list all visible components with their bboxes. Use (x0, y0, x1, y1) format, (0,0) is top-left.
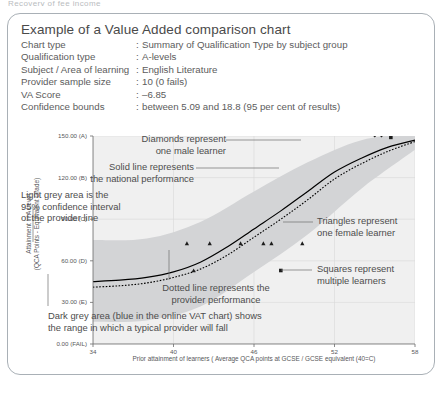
annotation-line: one female learner (317, 227, 427, 239)
y-axis-title: Attainment in A Level (QCA Points - Equi… (25, 120, 40, 328)
annotation-line: multiple learners (317, 275, 427, 287)
meta-label: Subject / Area of learning (21, 64, 136, 76)
annotation-line: of the provider line (21, 212, 171, 224)
y-tick-label: 60.00 (D) (21, 257, 87, 264)
x-axis-title: Prior attainment of learners ( Average Q… (93, 355, 415, 362)
annotation-line: provider performance (131, 294, 301, 306)
annotation-line: the range in which a typical provider wi… (48, 322, 318, 334)
annotation-diamonds: Diamonds represent one male learner (81, 133, 226, 156)
meta-value: English Literature (142, 64, 425, 76)
annotation-dark-grey-area: Dark grey area (blue in the online VAT c… (48, 310, 318, 333)
annotation-line: the national performance (51, 173, 194, 185)
annotation-line: Dotted line represents the (131, 282, 301, 294)
clipped-page-header-text: Recovery of fee income (8, 0, 148, 6)
meta-value: Summary of Qualification Type by subject… (142, 39, 425, 51)
meta-row-qualification-type: Qualification type : A-levels (21, 51, 425, 63)
annotation-line: Solid line represents (51, 161, 194, 173)
meta-label: Qualification type (21, 51, 136, 63)
meta-value: between 5.09 and 18.8 (95 per cent of re… (142, 101, 425, 113)
annotation-line: Squares represent (317, 263, 427, 275)
meta-label: Confidence bounds (21, 101, 136, 113)
y-axis-title-line-1: Attainment in A Level (25, 120, 33, 328)
y-tick-label: 30.00 (E) (21, 298, 87, 305)
x-tick-label: 46 (240, 348, 268, 355)
y-tick-label: 0.00 (FAIL) (21, 340, 87, 347)
y-axis-title-line-2: (QCA Points - Equivalent Grade) (33, 120, 41, 328)
annotation-light-grey-area: Light grey area is the 95% confidence in… (21, 189, 171, 224)
chart-metadata-header: Example of a Value Added comparison char… (21, 22, 425, 113)
meta-value: 10 (0 fails) (142, 76, 425, 88)
data-point-square (279, 269, 283, 273)
meta-label: VA Score (21, 89, 136, 101)
meta-row-provider-sample-size: Provider sample size : 10 (0 fails) (21, 76, 425, 88)
x-tick-label: 58 (401, 348, 429, 355)
meta-label: Chart type (21, 39, 136, 51)
annotation-triangles: Triangles represent one female learner (317, 215, 427, 238)
annotation-line: Light grey area is the (21, 189, 171, 201)
meta-label: Provider sample size (21, 76, 136, 88)
annotation-line: 95% confidence interval (21, 201, 171, 213)
value-added-chart-card: Example of a Value Added comparison char… (7, 13, 435, 375)
meta-row-chart-type: Chart type : Summary of Qualification Ty… (21, 39, 425, 51)
meta-value: A-levels (142, 51, 425, 63)
annotation-line: Triangles represent (317, 215, 427, 227)
annotation-line: Diamonds represent (81, 133, 226, 145)
x-tick-label: 40 (160, 348, 188, 355)
meta-row-va-score: VA Score : –6.85 (21, 89, 425, 101)
meta-row-subject-area: Subject / Area of learning : English Lit… (21, 64, 425, 76)
annotation-line: Dark grey area (blue in the online VAT c… (48, 310, 318, 322)
y-tick-label: 150.00 (A) (21, 132, 87, 139)
x-tick-label: 34 (79, 348, 107, 355)
data-point-square (389, 136, 393, 140)
annotation-line: one male learner (81, 145, 226, 157)
meta-value: –6.85 (142, 89, 425, 101)
annotation-solid-line: Solid line represents the national perfo… (51, 161, 194, 184)
x-tick-label: 52 (321, 348, 349, 355)
page-title: Example of a Value Added comparison char… (21, 22, 425, 37)
meta-row-confidence-bounds: Confidence bounds : between 5.09 and 18.… (21, 101, 425, 113)
annotation-dotted-line: Dotted line represents the provider perf… (131, 282, 301, 305)
annotation-squares: Squares represent multiple learners (317, 263, 427, 286)
value-added-comparison-chart: Attainment in A Level (QCA Points - Equi… (21, 122, 425, 367)
